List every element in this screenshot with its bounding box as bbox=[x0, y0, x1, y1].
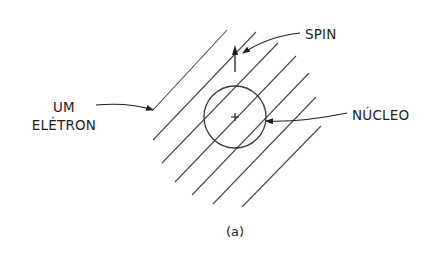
field-line-1 bbox=[153, 30, 227, 110]
electron-leader-arrow bbox=[96, 104, 153, 110]
spin-label: SPIN bbox=[305, 26, 337, 42]
field-line-7 bbox=[242, 126, 321, 207]
diagram-canvas: SPIN UM ELÉTRON NÚCLEO (a) bbox=[0, 0, 435, 259]
electron-label-line2: ELÉTRON bbox=[32, 117, 96, 133]
diagram-svg: SPIN UM ELÉTRON NÚCLEO (a) bbox=[0, 0, 435, 259]
electron-field-lines bbox=[153, 30, 321, 207]
nucleus-leader-arrow bbox=[266, 113, 347, 121]
nucleus-center-mark bbox=[231, 113, 239, 121]
nucleus-label: NÚCLEO bbox=[352, 106, 409, 123]
figure-caption: (a) bbox=[226, 224, 244, 239]
field-line-6 bbox=[213, 97, 316, 204]
electron-label-line1: UM bbox=[53, 99, 75, 115]
field-line-3 bbox=[162, 43, 278, 163]
spin-arrow-icon bbox=[232, 45, 238, 72]
